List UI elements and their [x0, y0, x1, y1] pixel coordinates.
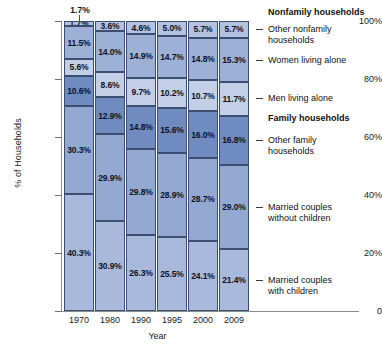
segment-1995-men-alone[interactable]: 10.2%	[157, 78, 187, 108]
segment-1980-other-nonfamily[interactable]: 3.6%	[95, 21, 125, 31]
segment-label: 9.7%	[132, 87, 151, 97]
segment-2000-married-without-children[interactable]: 28.7%	[188, 158, 218, 241]
x-axis-title: Year	[64, 331, 251, 341]
segment-1995-other-nonfamily[interactable]: 5.0%	[157, 21, 187, 36]
segment-1990-married-without-children[interactable]: 29.8%	[126, 149, 156, 235]
legend-line-1: Married couples	[268, 275, 380, 286]
legend-line-1: Other family	[268, 135, 380, 146]
stacked-bar-chart: % of Households 100% 80% 60% 40% 20% 0 1…	[0, 0, 382, 354]
segment-1995-other-family[interactable]: 15.6%	[157, 108, 187, 153]
segment-label: 5.7%	[194, 24, 213, 34]
x-axis-line	[61, 311, 359, 312]
segment-label: 29.9%	[98, 173, 122, 183]
segment-1990-other-nonfamily[interactable]: 4.6%	[126, 21, 156, 34]
segment-label: 12.9%	[98, 111, 122, 121]
segment-label: 25.5%	[160, 269, 184, 279]
segment-2009-other-family[interactable]: 16.8%	[219, 116, 249, 165]
segment-2009-married-without-children[interactable]: 29.0%	[219, 165, 249, 249]
y-tick-100	[55, 21, 62, 22]
segment-1980-other-family[interactable]: 12.9%	[95, 97, 125, 134]
segment-1995-women-alone[interactable]: 14.7%	[157, 36, 187, 79]
bar-column-1980[interactable]: 3.6% 14.0% 8.6% 12.9% 29.9% 30.9%	[95, 21, 125, 311]
segment-2009-women-alone[interactable]: 15.3%	[219, 38, 249, 82]
segment-label: 8.6%	[101, 80, 120, 90]
legend-group-nonfamily: Nonfamily households	[268, 7, 380, 18]
legend-dash-other-family	[256, 140, 263, 141]
segment-2000-married-with-children[interactable]: 24.1%	[188, 241, 218, 311]
y-tick-80	[55, 79, 62, 80]
segment-label: 21.4%	[222, 275, 246, 285]
legend-item-married-with-children: Married couples with children	[268, 275, 380, 296]
segment-1970-married-without-children[interactable]: 30.3%	[64, 106, 94, 194]
legend-dash-other-nonfamily	[256, 29, 263, 30]
legend-line-2: with children	[268, 286, 380, 297]
segment-2009-men-alone[interactable]: 11.7%	[219, 82, 249, 116]
legend-group-family: Family households	[268, 113, 380, 124]
segment-1990-other-family[interactable]: 14.8%	[126, 106, 156, 149]
segment-label: 29.0%	[222, 202, 246, 212]
legend-dash-married-without-children	[256, 207, 263, 208]
segment-label: 5.6%	[70, 62, 89, 72]
segment-1995-married-with-children[interactable]: 25.5%	[157, 237, 187, 311]
segment-label: 10.6%	[67, 86, 91, 96]
y-tick-label-80: 80%	[336, 74, 382, 84]
segment-label: 28.7%	[191, 194, 215, 204]
y-tick-40	[55, 195, 62, 196]
segment-2000-other-family[interactable]: 16.0%	[188, 111, 218, 157]
segment-1995-married-without-children[interactable]: 28.9%	[157, 153, 187, 237]
segment-1980-men-alone[interactable]: 8.6%	[95, 72, 125, 97]
bar-column-2000[interactable]: 5.7% 14.8% 10.7% 16.0% 28.7% 24.1%	[188, 21, 218, 311]
segment-label: 14.8%	[129, 122, 153, 132]
legend-line-2: households	[268, 146, 380, 157]
y-tick-label-20: 20%	[336, 248, 382, 258]
segment-label: 15.3%	[222, 55, 246, 65]
segment-label: 40.3%	[67, 248, 91, 258]
segment-1970-married-with-children[interactable]: 40.3%	[64, 194, 94, 311]
segment-1980-women-alone[interactable]: 14.0%	[95, 31, 125, 72]
segment-2000-other-nonfamily[interactable]: 5.7%	[188, 21, 218, 38]
segment-label: 15.6%	[160, 125, 184, 135]
x-tick-label-2009: 2009	[214, 315, 254, 325]
segment-label: 14.9%	[129, 51, 153, 61]
bar-column-2009[interactable]: 5.7% 15.3% 11.7% 16.8% 29.0% 21.4%	[219, 21, 249, 311]
y-axis-title: % of Households	[13, 78, 23, 228]
segment-1980-married-with-children[interactable]: 30.9%	[95, 221, 125, 311]
segment-2000-men-alone[interactable]: 10.7%	[188, 80, 218, 111]
legend-line-1: Other nonfamily	[268, 24, 380, 35]
segment-1990-married-with-children[interactable]: 26.3%	[126, 235, 156, 311]
segment-2009-married-with-children[interactable]: 21.4%	[219, 249, 249, 311]
segment-label: 5.0%	[163, 23, 182, 33]
segment-1990-women-alone[interactable]: 14.9%	[126, 34, 156, 77]
segment-label: 28.9%	[160, 190, 184, 200]
segment-1980-married-without-children[interactable]: 29.9%	[95, 134, 125, 221]
segment-1990-men-alone[interactable]: 9.7%	[126, 78, 156, 106]
legend-dash-men-alone	[256, 98, 263, 99]
legend-item-other-family: Other family households	[268, 135, 380, 156]
segment-1970-men-alone[interactable]: 5.6%	[64, 59, 94, 75]
legend-dash-married-with-children	[256, 280, 263, 281]
segment-1970-other-family[interactable]: 10.6%	[64, 76, 94, 107]
legend-line-2: households	[268, 35, 380, 46]
segment-label: 14.0%	[98, 47, 122, 57]
bar-column-1990[interactable]: 4.6% 14.9% 9.7% 14.8% 29.8% 26.3%	[126, 21, 156, 311]
bar-column-1970[interactable]: 1.7% 11.5% 5.6% 10.6% 30.3% 40.3%	[64, 21, 94, 311]
legend-item-men-alone: Men living alone	[268, 93, 380, 104]
segment-label: 30.3%	[67, 145, 91, 155]
segment-label: 11.7%	[222, 94, 245, 104]
legend-dash-women-alone	[256, 60, 263, 61]
bar-column-1995[interactable]: 5.0% 14.7% 10.2% 15.6% 28.9% 25.5%	[157, 21, 187, 311]
segment-label: 4.6%	[132, 23, 151, 33]
segment-1970-women-alone[interactable]: 11.5%	[64, 26, 94, 59]
segment-2000-women-alone[interactable]: 14.8%	[188, 38, 218, 81]
plot-area: 1.7% 11.5% 5.6% 10.6% 30.3% 40.3% 3.6% 1…	[64, 21, 251, 311]
segment-label: 16.0%	[191, 130, 215, 140]
y-tick-label-40: 40%	[336, 190, 382, 200]
segment-label: 11.5%	[67, 38, 90, 48]
segment-2009-other-nonfamily[interactable]: 5.7%	[219, 21, 249, 38]
legend-line-2: without children	[268, 213, 380, 224]
segment-label: 10.7%	[191, 91, 215, 101]
y-tick-60	[55, 137, 62, 138]
segment-label: 3.6%	[101, 21, 120, 31]
segment-label: 30.9%	[98, 261, 122, 271]
legend-item-women-alone: Women living alone	[268, 55, 380, 66]
